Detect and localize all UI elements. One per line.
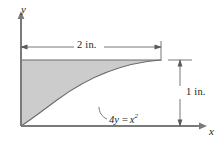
x-axis-label: x — [209, 126, 214, 137]
curve-equation-label: 4y=x2 — [109, 113, 138, 125]
shaded-region — [21, 60, 161, 126]
horizontal-dimension-label: 2 in. — [74, 40, 100, 51]
geometry-figure: y x 2 in. 1 in. 4y=x2 — [0, 0, 224, 144]
equation-leader-line — [99, 107, 107, 119]
x-axis-arrowhead — [199, 123, 207, 130]
vertical-dimension-label: 1 in. — [184, 87, 208, 98]
equation-exponent: 2 — [135, 112, 139, 120]
y-axis-label: y — [21, 4, 26, 15]
equation-operator: = — [122, 114, 128, 125]
equation-lhs: 4y — [109, 114, 119, 125]
